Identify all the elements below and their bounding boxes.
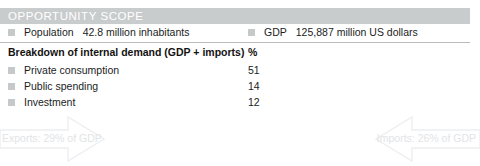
section-divider xyxy=(0,42,470,43)
list-item-label: Investment xyxy=(24,95,75,110)
list-item-label: Private consumption xyxy=(24,63,119,78)
list-item-value: 51 xyxy=(248,63,260,78)
list-item-label: Public spending xyxy=(24,79,98,94)
opportunity-scope-panel: OPPORTUNITY SCOPE Population 42.8 millio… xyxy=(0,0,480,166)
square-bullet-icon xyxy=(8,29,15,36)
stat-value: 42.8 million inhabitants xyxy=(83,26,190,38)
list-item: Public spending 14 xyxy=(0,79,470,95)
square-bullet-icon xyxy=(8,99,15,106)
stat-label: GDP xyxy=(264,26,287,38)
breakdown-title: Breakdown of internal demand (GDP + impo… xyxy=(8,46,244,58)
breakdown-list: Private consumption 51 Public spending 1… xyxy=(0,63,470,111)
list-item-value: 14 xyxy=(248,79,260,94)
square-bullet-icon xyxy=(8,67,15,74)
breakdown-unit-header: % xyxy=(248,46,257,58)
summary-stats-row: Population 42.8 million inhabitants GDP … xyxy=(0,26,470,41)
list-item-value: 12 xyxy=(248,95,260,110)
square-bullet-icon xyxy=(8,83,15,90)
list-item: Private consumption 51 xyxy=(0,63,470,79)
panel-title: OPPORTUNITY SCOPE xyxy=(8,9,143,23)
square-bullet-icon xyxy=(248,29,255,36)
stat-gdp: GDP 125,887 million US dollars xyxy=(248,26,418,38)
trade-flow-diagram: Exports: 29% of GDP Imports: 26% of GDP xyxy=(0,112,480,166)
stat-value: 125,887 million US dollars xyxy=(296,26,418,38)
list-item: Investment 12 xyxy=(0,95,470,111)
stat-population: Population 42.8 million inhabitants xyxy=(8,26,189,38)
stat-label: Population xyxy=(24,26,74,38)
exports-label: Exports: 29% of GDP xyxy=(2,131,102,145)
imports-label: Imports: 26% of GDP xyxy=(377,131,476,145)
